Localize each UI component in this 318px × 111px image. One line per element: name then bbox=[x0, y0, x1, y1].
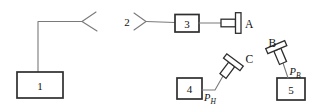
receiver-channel: 5 B P B bbox=[266, 37, 305, 101]
through-channel: 2 3 A bbox=[124, 13, 254, 34]
block4-transducer-connector bbox=[202, 76, 223, 90]
block1-antenna-connector bbox=[38, 22, 82, 73]
schematic-svg: 1 2 3 A 4 C P H bbox=[0, 0, 318, 111]
antenna-fork-left-icon bbox=[82, 12, 97, 31]
transducer-a-label: A bbox=[245, 18, 254, 30]
block-1-label: 1 bbox=[37, 80, 43, 92]
echo-channel: 1 bbox=[17, 12, 97, 98]
transducer-b-label: B bbox=[269, 37, 277, 49]
transducer-a bbox=[221, 13, 241, 34]
transducer-a-stem bbox=[221, 19, 236, 27]
emitter-channel: 4 C P H bbox=[177, 53, 254, 106]
block5-transducer-connector bbox=[283, 63, 288, 78]
port-pb-sub: B bbox=[296, 71, 301, 80]
transducer-c bbox=[215, 54, 243, 82]
antenna-2-label: 2 bbox=[124, 16, 130, 28]
block-3-label: 3 bbox=[184, 18, 190, 30]
transducer-a-plate bbox=[236, 13, 242, 34]
port-ph-sub: H bbox=[210, 97, 217, 106]
antenna-fork-right-icon bbox=[134, 13, 146, 30]
diagram-canvas: 1 2 3 A 4 C P H bbox=[0, 0, 318, 111]
block-4-label: 4 bbox=[187, 83, 193, 95]
transducer-c-label: C bbox=[246, 53, 254, 65]
antenna-block3-connector bbox=[146, 22, 175, 23]
block-5-label: 5 bbox=[288, 84, 294, 96]
